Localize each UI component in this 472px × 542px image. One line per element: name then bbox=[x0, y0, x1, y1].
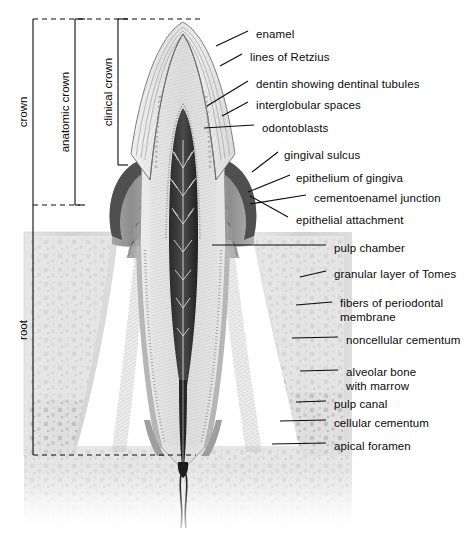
leader-cementoenamel-junction bbox=[250, 195, 306, 204]
leader-noncellular-cementum bbox=[292, 337, 338, 338]
bracket-anatomic-crown bbox=[75, 19, 85, 205]
leader-lines-of-retzius bbox=[220, 54, 242, 66]
label-leader-lines bbox=[204, 31, 338, 444]
leader-cellular-cementum bbox=[280, 420, 326, 421]
label-fibers-periodontal-1: fibers of periodontal bbox=[340, 297, 443, 310]
label-epithelial-attachment: epithelial attachment bbox=[296, 214, 404, 227]
label-dentin-tubules: dentin showing dentinal tubules bbox=[256, 78, 420, 91]
label-cementoenamel-junction: cementoenamel junction bbox=[314, 192, 441, 205]
leader-alveolar-bone-1 bbox=[300, 370, 338, 371]
label-fibers-periodontal-2: membrane bbox=[340, 311, 396, 324]
label-odontoblasts: odontoblasts bbox=[262, 122, 328, 135]
leader-odontoblasts bbox=[204, 125, 254, 128]
label-enamel: enamel bbox=[256, 28, 294, 41]
label-apical-foramen: apical foramen bbox=[334, 440, 411, 453]
tooth-anatomy-figure: enamellines of Retziusdentin showing den… bbox=[0, 0, 472, 542]
bracket-label-root: root bbox=[17, 320, 29, 340]
bracket-label-anatomic-crown: anatomic crown bbox=[59, 72, 71, 153]
leader-epithelium-of-gingiva bbox=[248, 175, 290, 192]
label-pulp-chamber: pulp chamber bbox=[334, 242, 405, 255]
label-noncellular-cementum: noncellular cementum bbox=[346, 334, 461, 347]
label-cellular-cementum: cellular cementum bbox=[334, 417, 429, 430]
bracket-clinical-crown bbox=[118, 19, 128, 165]
bracket-label-clinical-crown: clinical crown bbox=[102, 58, 114, 126]
label-pulp-canal: pulp canal bbox=[334, 398, 387, 411]
leader-apical-foramen bbox=[272, 443, 326, 444]
label-alveolar-bone-1: alveolar bone bbox=[346, 366, 416, 379]
leader-pulp-canal bbox=[296, 401, 326, 402]
label-gingival-sulcus: gingival sulcus bbox=[284, 149, 360, 162]
bracket-label-crown: crown bbox=[17, 97, 29, 128]
label-lines-of-retzius: lines of Retzius bbox=[250, 51, 330, 64]
leader-enamel bbox=[216, 31, 248, 46]
leader-dentin-tubules bbox=[207, 81, 248, 106]
label-interglobular-spaces: interglobular spaces bbox=[256, 99, 361, 112]
leader-granular-layer-of-tomes bbox=[300, 271, 326, 277]
label-alveolar-bone-2: with marrow bbox=[346, 380, 409, 393]
label-granular-layer-of-tomes: granular layer of Tomes bbox=[334, 268, 456, 281]
leader-fibers-periodontal-1 bbox=[296, 302, 332, 305]
leader-interglobular-spaces bbox=[222, 102, 248, 116]
leader-gingival-sulcus bbox=[252, 152, 278, 172]
label-epithelium-of-gingiva: epithelium of gingiva bbox=[296, 172, 403, 185]
